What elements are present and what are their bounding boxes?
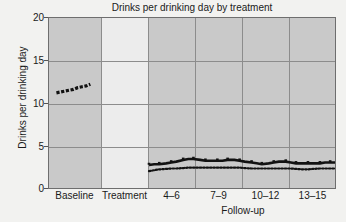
data-series-canvas	[49, 18, 336, 189]
x-tick-4-6: 4–6	[148, 190, 195, 202]
x-axis-label: Follow-up	[148, 205, 338, 216]
x-tick-baseline: Baseline	[48, 190, 101, 202]
y-tick-5: 5	[10, 142, 44, 152]
y-tick-10: 10	[10, 99, 44, 109]
chart-title: Drinks per drinking day by treatment	[48, 1, 336, 15]
plot-area	[48, 17, 336, 189]
x-tick-13-15: 13–15	[289, 190, 336, 202]
y-tick-15: 15	[10, 56, 44, 66]
x-tick-7-9: 7–9	[195, 190, 242, 202]
chart-figure: Drinks per drinking day by treatment Dri…	[0, 0, 346, 222]
x-tick-treatment: Treatment	[101, 190, 148, 202]
x-tick-10-12: 10–12	[242, 190, 289, 202]
y-tick-0: 0	[10, 184, 44, 194]
y-tick-20: 20	[10, 13, 44, 23]
y-axis-ticks: 20 15 10 5 0	[4, 0, 44, 222]
